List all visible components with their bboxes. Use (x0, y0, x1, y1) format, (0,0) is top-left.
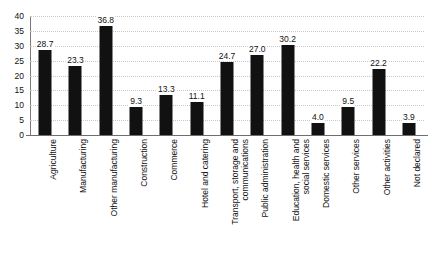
plot-area: 28.723.336.89.313.311.124.727.030.24.09.… (30, 16, 424, 135)
bar-value-label: 24.7 (218, 52, 237, 61)
bar[interactable] (281, 45, 294, 135)
y-tick-label: 0 (19, 131, 24, 140)
x-tick-label: Public administration (261, 139, 271, 251)
x-axis-category-labels: AgricultureManufacturingOther manufactur… (30, 139, 424, 255)
bar-value-label: 3.9 (402, 113, 416, 122)
bar-group[interactable]: 24.7 (212, 16, 242, 135)
bar-group[interactable]: 9.3 (121, 16, 151, 135)
bar-group[interactable]: 36.8 (91, 16, 121, 135)
x-tick-label: Domestic services (322, 139, 332, 251)
bar[interactable] (69, 66, 82, 135)
bar-value-label: 13.3 (157, 85, 176, 94)
bar[interactable] (342, 107, 355, 135)
bars-layer: 28.723.336.89.313.311.124.727.030.24.09.… (30, 16, 424, 135)
bar[interactable] (251, 55, 264, 135)
bar-group[interactable]: 27.0 (242, 16, 272, 135)
bar-group[interactable]: 28.7 (30, 16, 60, 135)
x-axis-line (26, 135, 428, 136)
bar-group[interactable]: 13.3 (151, 16, 181, 135)
bar[interactable] (311, 123, 324, 135)
bar-group[interactable]: 23.3 (60, 16, 90, 135)
bar-group[interactable]: 22.2 (363, 16, 393, 135)
bar-value-label: 28.7 (36, 40, 55, 49)
bar[interactable] (99, 26, 112, 135)
bar-group[interactable]: 3.9 (394, 16, 424, 135)
y-tick-label: 10 (15, 101, 24, 110)
bar-group[interactable]: 11.1 (182, 16, 212, 135)
x-tick-label: Not declared (413, 139, 423, 251)
x-tick-label: Other activities (383, 139, 393, 251)
x-tick-label: Other manufacturing (110, 139, 120, 251)
bar-value-label: 23.3 (66, 56, 85, 65)
bar-value-label: 36.8 (96, 16, 115, 25)
x-tick-label: Transport, storage and communications (231, 139, 250, 251)
bar[interactable] (220, 62, 233, 135)
bar[interactable] (190, 102, 203, 135)
x-tick-label: Construction (140, 139, 150, 251)
bar-value-label: 27.0 (248, 45, 267, 54)
y-tick-label: 15 (15, 86, 24, 95)
x-tick-label: Agriculture (49, 139, 59, 251)
bar[interactable] (160, 95, 173, 135)
y-tick-label: 40 (15, 12, 24, 21)
y-tick-label: 20 (15, 71, 24, 80)
x-tick-label: Education, health and social services (292, 139, 311, 251)
x-tick-label: Hotel and catering (201, 139, 211, 251)
bar-value-label: 22.2 (369, 59, 388, 68)
bar-value-label: 30.2 (278, 35, 297, 44)
y-tick-label: 25 (15, 56, 24, 65)
x-tick-label: Other services (352, 139, 362, 251)
bar-value-label: 4.0 (311, 113, 325, 122)
y-tick-label: 30 (15, 41, 24, 50)
bar-chart: 4035302520151050 28.723.336.89.313.311.1… (0, 0, 433, 256)
bar[interactable] (39, 50, 52, 135)
bar-group[interactable]: 4.0 (303, 16, 333, 135)
bar-value-label: 9.3 (129, 97, 143, 106)
bar[interactable] (372, 69, 385, 135)
x-tick-label: Manufacturing (79, 139, 89, 251)
bar[interactable] (402, 123, 415, 135)
bar-value-label: 11.1 (188, 92, 206, 101)
y-tick-label: 5 (19, 116, 24, 125)
y-axis: 4035302520151050 (0, 0, 27, 256)
bar-group[interactable]: 30.2 (272, 16, 302, 135)
bar-group[interactable]: 9.5 (333, 16, 363, 135)
bar-value-label: 9.5 (341, 97, 355, 106)
x-tick-label: Commerce (170, 139, 180, 251)
y-tick-label: 35 (15, 26, 24, 35)
bar[interactable] (130, 107, 143, 135)
